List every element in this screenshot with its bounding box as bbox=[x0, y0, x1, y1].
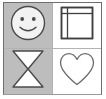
icon-grid bbox=[3, 2, 102, 95]
grid-cell-framed-square[interactable] bbox=[53, 3, 102, 49]
grid-cell-heart[interactable] bbox=[53, 49, 102, 95]
heart-icon bbox=[58, 51, 96, 91]
hourglass-icon bbox=[9, 49, 47, 95]
framed-square-icon bbox=[59, 5, 95, 45]
smiley-face-icon bbox=[8, 3, 48, 47]
screenshot-root bbox=[0, 0, 106, 99]
grid-cell-smiley-face[interactable] bbox=[4, 3, 53, 49]
grid-cell-hourglass[interactable] bbox=[4, 49, 53, 95]
